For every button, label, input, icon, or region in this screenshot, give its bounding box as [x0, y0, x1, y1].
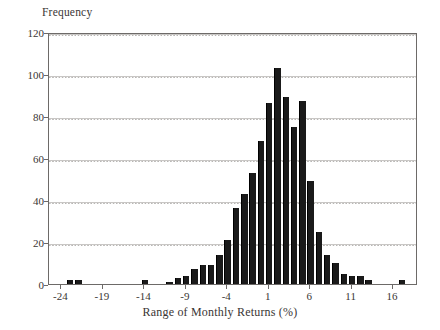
x-axis-tick-label: -19	[82, 290, 122, 302]
x-axis-tick-mark	[268, 285, 269, 289]
plot-area	[48, 33, 417, 285]
histogram-bar	[241, 194, 247, 284]
x-axis-tick-group: -24-19-14-9-4161116	[48, 285, 417, 307]
y-axis-tick-label: 20	[4, 237, 44, 249]
y-axis-tick-mark	[44, 285, 48, 286]
histogram-bar	[365, 280, 371, 284]
histogram-bar	[67, 280, 73, 284]
x-axis-tick-label: -4	[206, 290, 246, 302]
x-axis-tick-label: 16	[372, 290, 412, 302]
x-axis-tick-mark	[392, 285, 393, 289]
y-axis-tick-mark	[44, 117, 48, 118]
y-axis-label: Frequency	[42, 6, 92, 18]
y-axis-tick-mark	[44, 243, 48, 244]
y-axis-tick-mark	[44, 75, 48, 76]
x-axis-tick-label: -14	[123, 290, 163, 302]
histogram-bar	[216, 255, 222, 284]
histogram-bar	[258, 141, 264, 284]
histogram-bar	[200, 265, 206, 284]
histogram-bar	[175, 278, 181, 284]
gridline-dotted	[49, 119, 416, 120]
histogram-bar	[299, 101, 305, 284]
x-axis-tick-label: -24	[40, 290, 80, 302]
histogram-bar	[341, 274, 347, 285]
y-axis-tick-label: 80	[4, 111, 44, 123]
y-axis-tick-label: 120	[4, 27, 44, 39]
histogram-bar	[266, 103, 272, 284]
x-axis-tick-label: 1	[248, 290, 288, 302]
histogram-bar	[332, 263, 338, 284]
x-axis-tick-mark	[143, 285, 144, 289]
gridline-dotted	[49, 35, 416, 36]
x-axis-label: Range of Monthly Returns (%)	[0, 305, 440, 320]
y-axis-tick-label: 60	[4, 153, 44, 165]
x-axis-tick-mark	[60, 285, 61, 289]
histogram-bar	[249, 173, 255, 284]
y-axis-tick-label: 40	[4, 195, 44, 207]
y-axis-tick-mark	[44, 159, 48, 160]
x-axis-tick-mark	[351, 285, 352, 289]
x-axis-tick-label: 6	[289, 290, 329, 302]
x-axis-tick-mark	[226, 285, 227, 289]
x-axis-tick-label: -9	[165, 290, 205, 302]
histogram-bar	[283, 97, 289, 284]
histogram-bar	[349, 276, 355, 284]
x-axis-tick-label: 11	[331, 290, 371, 302]
y-axis-tick-group: 020406080100120	[0, 33, 44, 285]
histogram-bar	[316, 232, 322, 285]
gridline-dotted	[49, 77, 416, 78]
histogram-bar	[191, 269, 197, 284]
histogram-bar	[291, 127, 297, 285]
histogram-bar	[142, 280, 148, 284]
y-axis-tick-mark	[44, 33, 48, 34]
x-axis-tick-mark	[185, 285, 186, 289]
y-axis-tick-label: 100	[4, 69, 44, 81]
x-axis-tick-mark	[102, 285, 103, 289]
histogram-bar	[233, 208, 239, 284]
x-axis-tick-mark	[309, 285, 310, 289]
histogram-bar	[357, 276, 363, 284]
histogram-bar	[75, 280, 81, 284]
gridline-dotted	[49, 161, 416, 162]
gridline-dotted	[49, 203, 416, 204]
y-axis-tick-mark	[44, 201, 48, 202]
histogram-bar	[183, 276, 189, 284]
histogram-bar	[307, 181, 313, 284]
y-axis-tick-label: 0	[4, 279, 44, 291]
histogram-bar	[224, 240, 230, 284]
histogram-bar	[324, 255, 330, 284]
histogram-figure: Frequency 020406080100120 -24-19-14-9-41…	[0, 0, 440, 330]
histogram-bar	[399, 280, 405, 284]
histogram-bar	[208, 265, 214, 284]
histogram-bar	[166, 282, 172, 284]
histogram-bar	[274, 68, 280, 284]
